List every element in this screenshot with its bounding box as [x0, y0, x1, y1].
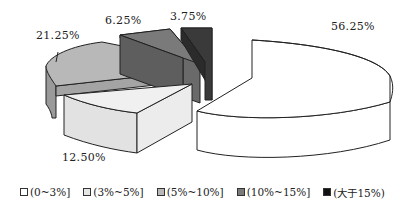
legend-swatch-icon — [323, 188, 331, 196]
legend-item-over-15: (大于15%) — [323, 185, 385, 200]
legend-swatch-icon — [157, 188, 165, 196]
label-slice-5-10: 21.25% — [36, 29, 80, 42]
legend-label: (10%~15%] — [247, 186, 311, 198]
legend-swatch-icon — [83, 188, 91, 196]
legend-label: (大于15%) — [333, 185, 385, 200]
legend-item-5-10: (5%~10%] — [157, 186, 224, 198]
legend-swatch-icon — [237, 188, 245, 196]
legend-label: (3%~5%] — [93, 186, 143, 198]
legend-item-10-15: (10%~15%] — [237, 186, 311, 198]
legend-label: (0~3%] — [30, 186, 70, 198]
legend-swatch-icon — [20, 188, 28, 196]
label-slice-over-15: 3.75% — [170, 10, 206, 23]
legend-item-3-5: (3%~5%] — [83, 186, 143, 198]
legend-item-0-3: (0~3%] — [20, 186, 70, 198]
legend: (0~3%] (3%~5%] (5%~10%] (10%~15%] (大于15%… — [20, 184, 415, 200]
label-slice-10-15: 6.25% — [105, 14, 141, 27]
legend-label: (5%~10%] — [167, 186, 224, 198]
slice-3-5 — [64, 84, 192, 153]
slice-0-3 — [197, 40, 393, 157]
label-slice-0-3: 56.25% — [331, 20, 375, 33]
label-slice-3-5: 12.50% — [62, 151, 106, 164]
